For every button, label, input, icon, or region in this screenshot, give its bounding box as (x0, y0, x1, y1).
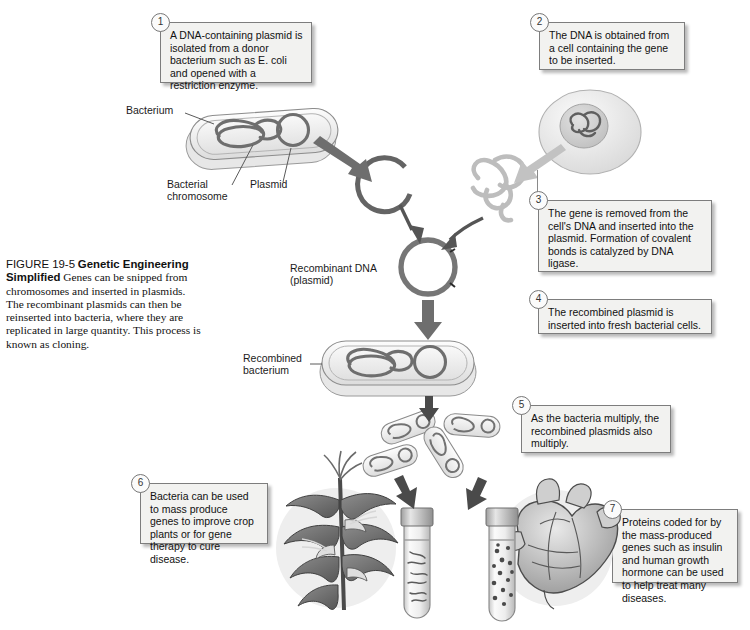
step-badge-6: 6 (131, 474, 150, 493)
step-badge-4: 4 (529, 290, 548, 309)
step-badge-1: 1 (151, 13, 170, 32)
figure-canvas: 1 A DNA-containing plasmid is isolated f… (0, 0, 750, 630)
label-leader-lines (0, 0, 750, 630)
step-badge-7: 7 (603, 500, 622, 519)
step-badge-3: 3 (529, 191, 548, 210)
step-badge-2: 2 (530, 13, 549, 32)
step-badge-5: 5 (512, 396, 531, 415)
